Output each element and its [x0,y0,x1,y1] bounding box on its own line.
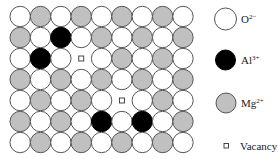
oxygen-ion-icon [91,48,111,68]
oxygen-ion-icon [132,90,152,110]
oxygen-ion-icon [71,27,91,47]
oxygen-ion-icon [173,132,193,152]
legend-symbols [200,0,278,159]
oxygen-ion-icon [30,27,50,47]
magnesium-ion-icon [51,111,71,131]
magnesium-ion-icon [173,111,193,131]
aluminum-ion-icon [132,111,152,131]
legend-charge: 2+ [256,97,263,105]
oxygen-ion-icon [51,6,71,26]
oxygen-ion-icon [10,6,30,26]
magnesium-ion-icon [132,27,152,47]
oxygen-ion-icon [10,48,30,68]
magnesium-ion-legend-icon [216,93,236,113]
legend-base: Mg [241,97,256,109]
oxygen-ion-icon [30,111,50,131]
oxygen-ion-icon [51,48,71,68]
oxygen-ion-icon [51,90,71,110]
oxygen-ion-icon [173,90,193,110]
magnesium-ion-icon [152,132,172,152]
magnesium-ion-icon [71,132,91,152]
magnesium-ion-icon [152,48,172,68]
oxygen-ion-icon [71,111,91,131]
oxygen-ion-icon [112,111,132,131]
aluminum-ion-icon [91,111,111,131]
legend-label-aluminum: Al3+ [241,54,259,66]
oxygen-ion-icon [91,6,111,26]
legend-charge: 2− [249,13,256,21]
magnesium-ion-icon [30,6,50,26]
oxygen-ion-icon [152,69,172,89]
legend-base: Al [241,54,252,66]
oxygen-ion-icon [10,132,30,152]
magnesium-ion-icon [71,6,91,26]
magnesium-ion-icon [173,69,193,89]
oxygen-ion-icon [152,27,172,47]
magnesium-ion-icon [112,48,132,68]
magnesium-ion-icon [10,111,30,131]
magnesium-ion-icon [112,132,132,152]
oxygen-ion-icon [132,6,152,26]
oxygen-ion-icon [132,48,152,68]
legend-label-vacancy: Vacancy [240,140,277,152]
magnesium-ion-icon [10,27,30,47]
oxygen-ion-icon [51,132,71,152]
magnesium-ion-icon [152,90,172,110]
oxygen-ion-icon [112,69,132,89]
oxygen-ion-icon [152,111,172,131]
oxygen-ion-icon [91,132,111,152]
magnesium-ion-icon [10,69,30,89]
oxygen-ion-icon [71,69,91,89]
magnesium-ion-icon [71,90,91,110]
magnesium-ion-icon [91,27,111,47]
magnesium-ion-icon [30,90,50,110]
oxygen-ion-icon [30,69,50,89]
magnesium-ion-icon [132,69,152,89]
magnesium-ion-icon [91,69,111,89]
magnesium-ion-icon [51,69,71,89]
crystal-lattice [0,0,200,159]
vacancy-icon [79,56,84,61]
oxygen-ion-icon [91,90,111,110]
vacancy-legend-icon [224,144,229,149]
oxygen-ion-icon [173,48,193,68]
oxygen-ion-icon [173,6,193,26]
legend-label-magnesium: Mg2+ [241,97,264,109]
aluminum-ion-icon [30,48,50,68]
vacancy-icon [119,98,124,103]
legend-label-oxygen: O2− [241,13,256,25]
legend-base: O [241,13,249,25]
magnesium-ion-icon [152,6,172,26]
oxygen-ion-legend-icon [215,8,237,30]
legend-base: Vacancy [240,140,277,152]
oxygen-ion-icon [112,27,132,47]
magnesium-ion-icon [173,27,193,47]
magnesium-ion-icon [30,132,50,152]
magnesium-ion-icon [112,6,132,26]
aluminum-ion-icon [51,27,71,47]
legend-charge: 3+ [252,54,259,62]
aluminum-ion-legend-icon [216,50,236,70]
oxygen-ion-icon [10,90,30,110]
oxygen-ion-icon [132,132,152,152]
